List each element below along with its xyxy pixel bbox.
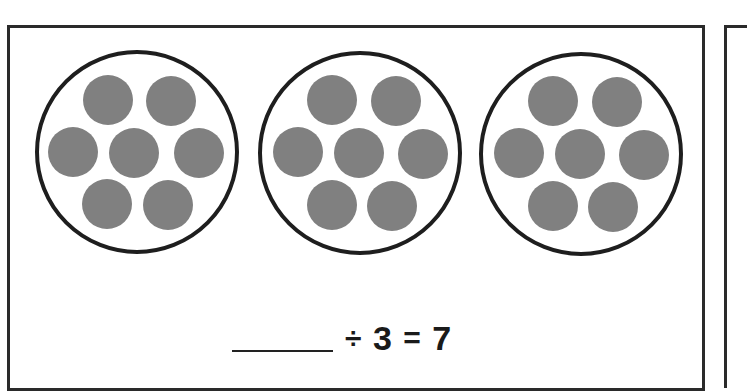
counter-dot [83,75,133,125]
counter-dot [174,128,224,178]
counter-dot [528,76,578,126]
group-circle-3 [481,54,681,254]
group-circle-1 [37,52,237,252]
counter-dot [109,128,159,178]
counter-dot [82,179,132,229]
counter-dot [334,128,384,178]
counter-dot [307,75,357,125]
counter-dot [555,129,605,179]
divisor-value: 3 [373,318,393,358]
counter-dot [146,76,196,126]
counter-dot [48,127,98,177]
counter-dot [371,76,421,126]
counter-dot [273,127,323,177]
counter-dot [367,181,417,231]
division-equation: ÷ 3 = 7 [232,318,452,358]
counter-dot [307,180,357,230]
counter-dot [619,130,669,180]
counter-dot [588,182,638,232]
counter-dot [398,129,448,179]
quotient-value: 7 [432,318,452,358]
counter-dot [494,128,544,178]
counter-dot [592,77,642,127]
counter-dot [528,181,578,231]
equals-symbol: = [403,318,422,358]
group-circle-2 [260,53,460,253]
answer-blank[interactable] [232,350,333,352]
divide-symbol: ÷ [345,318,362,358]
counter-dot [143,180,193,230]
